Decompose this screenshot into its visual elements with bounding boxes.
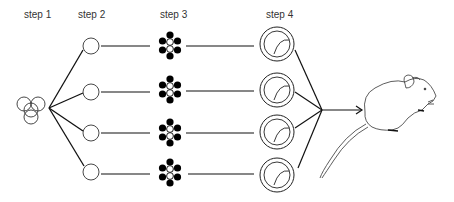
fan-out-lines	[49, 50, 84, 166]
converge-lines	[295, 50, 322, 168]
mouse-icon	[320, 75, 436, 178]
step-1-cell-cluster-icon	[17, 97, 45, 124]
process-diagram	[0, 0, 454, 202]
step-3-to-4-lines	[186, 46, 254, 174]
arrow-right-icon	[322, 106, 362, 114]
step-2-circles	[83, 38, 99, 180]
step-2-to-3-lines	[101, 46, 150, 174]
step-3-clusters	[159, 31, 181, 186]
step-4-dishes	[260, 27, 294, 192]
